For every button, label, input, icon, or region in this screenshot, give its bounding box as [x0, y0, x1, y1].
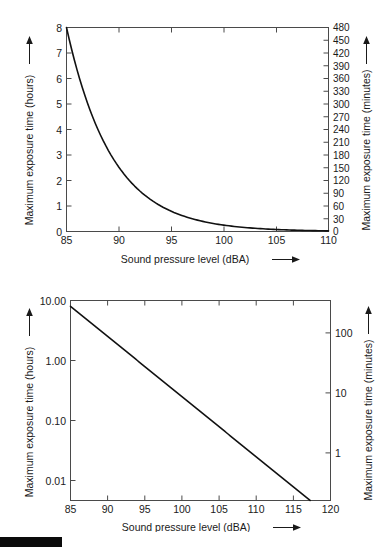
arrow-up-icon — [26, 308, 33, 316]
y-left-tick-label: 10.00 — [40, 295, 66, 307]
x-tick-label: 120 — [322, 503, 340, 515]
y-right-tick-label: 270 — [333, 112, 350, 123]
x-tick-label: 100 — [215, 234, 233, 246]
x-tick-labels: 85 90 95 100 105 110 115 120 — [65, 503, 340, 515]
y-right-tick-label: 180 — [333, 150, 350, 161]
y-left-tick-label: 8 — [56, 22, 62, 34]
y-right-axis-title-group: Maximum exposure time (minutes) — [362, 306, 374, 501]
arrow-right-icon — [293, 524, 301, 531]
y-left-axis-title-group: Maximum exposure time (hours) — [23, 36, 35, 225]
x-tick-label: 85 — [61, 234, 73, 246]
y-left-axis-ticks — [67, 28, 72, 232]
y-left-tick-label: 0 — [56, 226, 62, 238]
black-crop-bar — [0, 537, 62, 547]
y-right-axis-title: Maximum exposure time (minutes) — [362, 339, 374, 500]
y-right-tick-label: 150 — [333, 163, 350, 174]
plot-frame — [67, 28, 329, 232]
x-tick-label: 110 — [248, 503, 265, 515]
y-right-axis-ticks — [324, 28, 329, 232]
y-right-axis-title-group: Maximum exposure time (minutes) — [360, 36, 372, 231]
arrow-right-icon — [292, 256, 300, 263]
y-left-axis-ticks — [71, 301, 76, 481]
y-left-tick-label: 0.10 — [46, 415, 67, 427]
y-left-tick-label: 6 — [56, 73, 62, 85]
y-left-tick-label: 0.01 — [46, 475, 67, 487]
y-right-tick-label: 300 — [333, 99, 350, 110]
y-left-axis-title-group: Maximum exposure time (hours) — [23, 308, 35, 497]
y-left-tick-label: 2 — [56, 175, 62, 187]
x-axis-title: Sound pressure level (dBA) — [121, 253, 249, 265]
y-right-tick-label: 10 — [335, 387, 347, 399]
y-right-tick-label: 390 — [333, 61, 350, 72]
y-left-tick-labels: 0 1 2 3 4 5 6 7 8 — [56, 22, 62, 238]
y-left-tick-labels: 0.01 0.10 1.00 10.00 — [40, 295, 66, 487]
y-left-axis-title: Maximum exposure time (hours) — [23, 347, 35, 498]
x-tick-label: 105 — [210, 503, 228, 515]
x-tick-label: 95 — [139, 503, 151, 515]
exposure-line — [71, 306, 311, 500]
plot-frame — [71, 301, 331, 501]
linear-exposure-chart: 85 90 95 100 105 110 0 1 2 3 4 5 6 7 8 0… — [0, 0, 387, 272]
y-left-tick-label: 5 — [56, 98, 62, 110]
linear-exposure-figure: 85 90 95 100 105 110 0 1 2 3 4 5 6 7 8 0… — [0, 0, 387, 272]
log-exposure-chart: 85 90 95 100 105 110 115 120 0.01 0.10 1… — [0, 272, 387, 532]
y-right-tick-label: 120 — [333, 175, 350, 186]
y-left-tick-label: 3 — [56, 149, 62, 161]
x-tick-label: 100 — [173, 503, 191, 515]
y-right-tick-label: 0 — [333, 226, 339, 237]
y-right-tick-label: 240 — [333, 124, 350, 135]
y-right-axis-ticks — [326, 333, 331, 453]
y-left-tick-label: 4 — [56, 124, 62, 136]
arrow-up-icon — [365, 306, 372, 314]
x-axis-title: Sound pressure level (dBA) — [122, 521, 250, 532]
y-right-tick-labels: 0 30 60 90 120 150 180 210 240 270 300 3… — [333, 22, 350, 237]
x-axis-ticks-top — [119, 28, 277, 33]
x-tick-labels: 85 90 95 100 105 110 — [61, 234, 337, 246]
y-left-axis-title: Maximum exposure time (hours) — [23, 75, 35, 226]
x-axis-title-group: Sound pressure level (dBA) — [122, 521, 301, 532]
arrow-up-icon — [26, 36, 33, 44]
x-axis-ticks — [71, 496, 331, 501]
y-right-tick-label: 30 — [333, 214, 345, 225]
y-right-tick-label: 480 — [333, 22, 350, 33]
y-left-tick-label: 1 — [56, 200, 62, 212]
y-right-tick-label: 450 — [333, 35, 350, 46]
x-tick-label: 90 — [102, 503, 114, 515]
y-right-tick-labels: 1 10 100 — [335, 327, 353, 459]
y-right-tick-label: 210 — [333, 137, 350, 148]
y-right-tick-label: 420 — [333, 48, 350, 59]
x-tick-label: 115 — [285, 503, 302, 515]
y-right-tick-label: 90 — [333, 188, 345, 199]
y-right-tick-label: 100 — [335, 327, 353, 339]
x-tick-label: 105 — [268, 234, 286, 246]
y-left-tick-label: 7 — [56, 47, 62, 59]
y-right-tick-label: 1 — [335, 447, 341, 459]
y-right-tick-label: 360 — [333, 73, 350, 84]
y-left-tick-label: 1.00 — [46, 355, 67, 367]
y-right-tick-label: 330 — [333, 86, 350, 97]
arrow-up-icon — [363, 36, 370, 44]
log-exposure-figure: 85 90 95 100 105 110 115 120 0.01 0.10 1… — [0, 272, 387, 532]
y-right-tick-label: 60 — [333, 201, 345, 212]
exposure-curve — [67, 28, 329, 231]
x-tick-label: 95 — [166, 234, 178, 246]
x-tick-label: 85 — [65, 503, 77, 515]
x-tick-label: 90 — [113, 234, 125, 246]
x-axis-ticks-top — [108, 301, 294, 306]
y-right-axis-title: Maximum exposure time (minutes) — [360, 69, 372, 230]
x-axis-title-group: Sound pressure level (dBA) — [121, 253, 300, 265]
